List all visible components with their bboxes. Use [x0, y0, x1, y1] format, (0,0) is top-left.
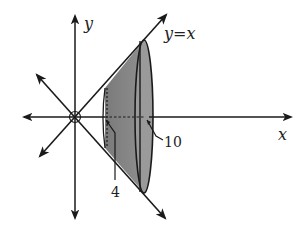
solid-of-revolution-diagram: y y=x x 10 4	[0, 0, 304, 230]
inner-disk-face	[103, 88, 105, 148]
x-axis-label: x	[278, 125, 287, 144]
line-label-y-equals-x: y=x	[163, 24, 195, 43]
label-10: 10	[164, 134, 182, 150]
label-4: 4	[111, 184, 120, 200]
y-axis-label: y	[83, 14, 94, 33]
